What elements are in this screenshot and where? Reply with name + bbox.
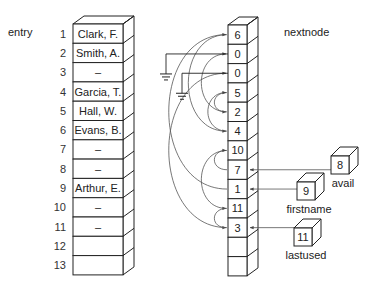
entry-value: – bbox=[95, 201, 102, 213]
pointer-label: avail bbox=[332, 177, 355, 189]
pointer-firstname: 9firstname bbox=[250, 173, 332, 215]
nextnode-value: 0 bbox=[234, 48, 240, 60]
entry-value: Evans, B. bbox=[74, 124, 121, 136]
ground-icon bbox=[160, 54, 228, 80]
nextnode-value: 10 bbox=[231, 144, 243, 156]
entry-value: – bbox=[95, 163, 102, 175]
nextnode-cell bbox=[228, 237, 247, 256]
nextnode-value: 5 bbox=[234, 87, 240, 99]
pointer-lastused: 11lastused bbox=[250, 219, 326, 261]
entry-index: 13 bbox=[54, 259, 66, 271]
nextnode-array: 6005241071113 bbox=[228, 17, 258, 276]
entry-value: – bbox=[95, 143, 102, 155]
entry-value: – bbox=[95, 66, 102, 78]
entry-value: Garcia, T. bbox=[75, 86, 122, 98]
pointer-label: lastused bbox=[286, 249, 327, 261]
nextnode-value: 4 bbox=[234, 125, 240, 137]
nextnode-value: 6 bbox=[234, 29, 240, 41]
link-arrow bbox=[169, 35, 227, 189]
entry-index: 7 bbox=[60, 143, 66, 155]
entry-index: 10 bbox=[54, 201, 66, 213]
entry-value: Hall, W. bbox=[79, 105, 117, 117]
entry-index: 8 bbox=[60, 163, 66, 175]
entry-index: 1 bbox=[60, 28, 66, 40]
entry-index: 12 bbox=[54, 240, 66, 252]
pointer-label: firstname bbox=[286, 203, 331, 215]
link-arrow bbox=[214, 208, 227, 227]
nextnode-label: nextnode bbox=[284, 26, 329, 38]
nextnode-value: 3 bbox=[234, 222, 240, 234]
link-arrow bbox=[188, 35, 227, 131]
entry-value: Clark, F. bbox=[78, 28, 118, 40]
entry-cell bbox=[73, 236, 123, 255]
pointer-value: 11 bbox=[297, 231, 308, 243]
entry-value: Smith, A. bbox=[76, 47, 120, 59]
nextnode-value: 7 bbox=[234, 164, 240, 176]
entry-index: 3 bbox=[60, 66, 66, 78]
nextnode-side-face bbox=[247, 17, 258, 276]
entry-index: 5 bbox=[60, 105, 66, 117]
entry-index: 11 bbox=[55, 221, 66, 233]
entry-index: 9 bbox=[60, 182, 66, 194]
nextnode-cell bbox=[228, 257, 247, 276]
entry-side-face bbox=[123, 16, 134, 275]
pointer-variables: 8avail9firstname11lastused bbox=[250, 147, 358, 261]
entry-index: 4 bbox=[60, 86, 66, 98]
entry-value: – bbox=[95, 221, 102, 233]
pointer-value: 8 bbox=[337, 159, 343, 171]
entry-value: Arthur, E. bbox=[75, 182, 121, 194]
pointer-value: 9 bbox=[303, 185, 309, 197]
entry-array: 1Clark, F.2Smith, A.3–4Garcia, T.5Hall, … bbox=[54, 16, 134, 275]
nextnode-value: 2 bbox=[234, 106, 240, 118]
nextnode-value: 0 bbox=[234, 67, 240, 79]
linked-list-diagram: entry nextnode 1Clark, F.2Smith, A.3–4Ga… bbox=[0, 0, 378, 287]
entry-label: entry bbox=[8, 26, 33, 38]
link-arrow bbox=[214, 150, 227, 169]
link-arrow bbox=[169, 73, 227, 227]
entry-index: 6 bbox=[60, 124, 66, 136]
entry-cell bbox=[73, 256, 123, 275]
link-arrows bbox=[169, 35, 227, 228]
nextnode-value: 11 bbox=[232, 202, 243, 214]
nextnode-value: 1 bbox=[234, 183, 240, 195]
entry-index: 2 bbox=[60, 47, 66, 59]
